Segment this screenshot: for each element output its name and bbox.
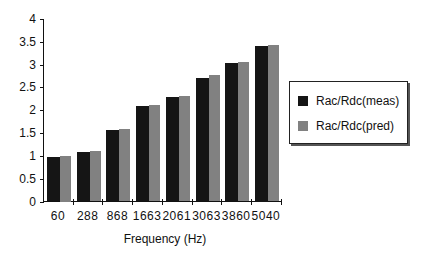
x-tick-mark — [162, 199, 163, 205]
bar-pred — [119, 129, 130, 202]
x-tick-label: 3860 — [221, 209, 251, 223]
bar-pred — [238, 62, 249, 202]
x-tick-label: 2061 — [162, 209, 192, 223]
bar-meas — [77, 152, 90, 202]
bar-meas — [225, 63, 238, 201]
legend-swatch-meas-icon — [298, 96, 308, 106]
y-tick-label: 0 — [4, 195, 36, 209]
y-tick-label: 0.5 — [4, 172, 36, 186]
bar-meas — [47, 157, 60, 202]
legend: Rac/Rdc(meas) Rac/Rdc(pred) — [289, 81, 408, 144]
x-tick-label: 3063 — [192, 209, 222, 223]
bar-pred — [268, 45, 279, 202]
x-tick-label: 1663 — [132, 209, 162, 223]
bar-meas — [255, 46, 268, 201]
x-tick-mark — [102, 199, 103, 205]
y-tick-mark — [40, 202, 44, 203]
x-tick-mark — [73, 199, 74, 205]
x-tick-mark — [192, 199, 193, 205]
y-axis — [43, 19, 44, 202]
bar-pred — [90, 151, 101, 202]
legend-label: Rac/Rdc(meas) — [316, 94, 399, 108]
bar-pred — [179, 96, 190, 202]
y-tick-label: 1.5 — [4, 126, 36, 140]
y-tick-label: 2.5 — [4, 80, 36, 94]
y-tick-label: 1 — [4, 149, 36, 163]
x-tick-label: 5040 — [251, 209, 281, 223]
legend-swatch-pred-icon — [298, 121, 308, 131]
x-tick-label: 868 — [102, 209, 132, 223]
legend-item-meas: Rac/Rdc(meas) — [298, 94, 399, 108]
x-tick-mark — [251, 199, 252, 205]
x-axis-title: Frequency (Hz) — [120, 232, 210, 246]
bar-meas — [196, 78, 209, 202]
x-tick-label: 288 — [73, 209, 103, 223]
x-tick-mark — [221, 199, 222, 205]
bar-meas — [166, 97, 179, 201]
bar-meas — [136, 106, 149, 201]
bar-meas — [106, 130, 119, 201]
y-tick-label: 4 — [4, 12, 36, 26]
legend-item-pred: Rac/Rdc(pred) — [298, 119, 394, 133]
y-tick-label: 2 — [4, 103, 36, 117]
bar-pred — [149, 105, 160, 202]
x-tick-mark — [132, 199, 133, 205]
bar-pred — [209, 75, 220, 201]
y-tick-label: 3.5 — [4, 35, 36, 49]
bar-pred — [60, 156, 71, 202]
x-tick-mark — [281, 199, 282, 205]
bar-chart: 00.511.522.533.54 6028886816632061306338… — [0, 0, 426, 258]
x-tick-label: 60 — [43, 209, 73, 223]
legend-label: Rac/Rdc(pred) — [316, 119, 394, 133]
y-tick-label: 3 — [4, 58, 36, 72]
